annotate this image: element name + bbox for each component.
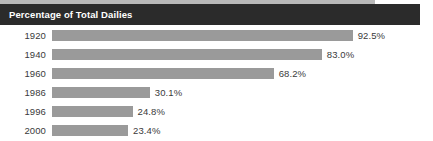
- chart-header-bar: Percentage of Total Dailies: [0, 4, 420, 25]
- bar-track: 30.1%: [52, 84, 433, 101]
- chart-title: Percentage of Total Dailies: [0, 9, 132, 20]
- bar-category-label: 1940: [0, 49, 46, 60]
- bar-fill: [52, 49, 322, 60]
- bar-category-label: 1996: [0, 106, 46, 117]
- bar-row: 2000 23.4%: [0, 122, 433, 139]
- bar-row: 1986 30.1%: [0, 84, 433, 101]
- bar-row: 1960 68.2%: [0, 65, 433, 82]
- bar-chart-plot-area: 1920 92.5% 1940 83.0% 1960 68.2% 1986: [0, 27, 433, 141]
- chart-panel: Percentage of Total Dailies 1920 92.5% 1…: [0, 0, 433, 141]
- bar-fill: [52, 125, 128, 136]
- bar-category-label: 1986: [0, 87, 46, 98]
- bar-category-label: 2000: [0, 125, 46, 136]
- bar-category-label: 1960: [0, 68, 46, 79]
- bar-row: 1920 92.5%: [0, 27, 433, 44]
- bar-fill: [52, 30, 353, 41]
- bar-track: 92.5%: [52, 27, 433, 44]
- bar-fill: [52, 106, 133, 117]
- bar-fill: [52, 68, 274, 79]
- bar-track: 83.0%: [52, 46, 433, 63]
- bar-value-label: 24.8%: [138, 106, 165, 117]
- bar-value-label: 83.0%: [327, 49, 354, 60]
- bar-track: 24.8%: [52, 103, 433, 120]
- bar-value-label: 92.5%: [358, 30, 385, 41]
- bar-value-label: 23.4%: [133, 125, 160, 136]
- bar-track: 68.2%: [52, 65, 433, 82]
- bar-row: 1940 83.0%: [0, 46, 433, 63]
- bar-value-label: 30.1%: [155, 87, 182, 98]
- bar-row: 1996 24.8%: [0, 103, 433, 120]
- bar-category-label: 1920: [0, 30, 46, 41]
- bar-value-label: 68.2%: [279, 68, 306, 79]
- bar-fill: [52, 87, 150, 98]
- bar-track: 23.4%: [52, 122, 433, 139]
